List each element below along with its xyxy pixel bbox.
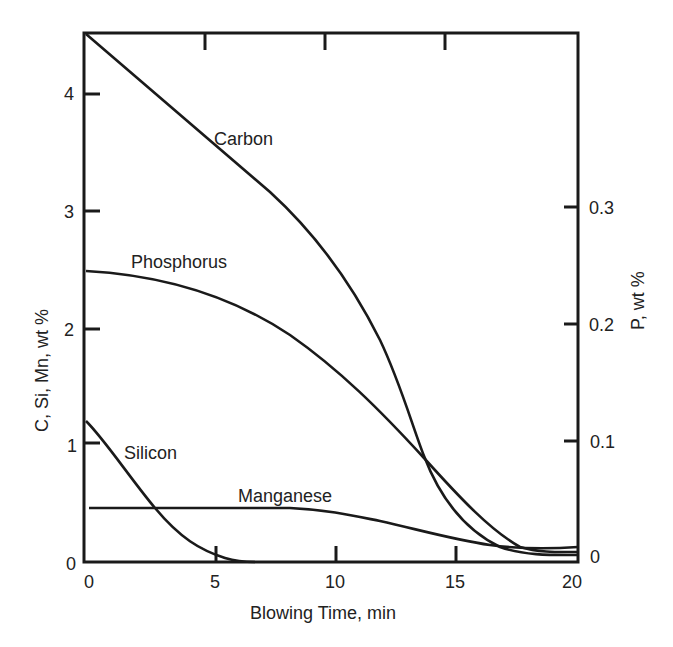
y-tick-label: 1 bbox=[67, 436, 77, 456]
phosphorus-label: Phosphorus bbox=[131, 252, 227, 272]
x-tick-label: 0 bbox=[84, 572, 94, 592]
y-right-tick-label: 0 bbox=[590, 547, 600, 567]
y-right-axis-title: P, wt % bbox=[628, 271, 648, 330]
x-tick-label: 10 bbox=[325, 572, 345, 592]
y-right-tick-label: 0.1 bbox=[590, 432, 615, 452]
y-axis-title: C, Si, Mn, wt % bbox=[32, 309, 52, 432]
x-tick-label: 20 bbox=[562, 572, 582, 592]
x-tick-label: 5 bbox=[210, 572, 220, 592]
y-tick-label: 0 bbox=[66, 554, 76, 574]
manganese-curve bbox=[89, 508, 578, 548]
carbon-curve bbox=[86, 34, 578, 555]
y-right-tick-label: 0.3 bbox=[589, 198, 614, 218]
y-tick-label: 3 bbox=[64, 202, 74, 222]
plot-frame bbox=[84, 33, 578, 562]
x-ticks-top bbox=[205, 33, 445, 50]
manganese-label: Manganese bbox=[238, 486, 332, 506]
x-tick-label: 15 bbox=[445, 572, 465, 592]
y-tick-label: 4 bbox=[64, 84, 74, 104]
right-y-ticks bbox=[564, 207, 578, 441]
chart-canvas: 4 3 2 1 0 0.3 0.2 0.1 0 0 5 10 15 20 Blo… bbox=[0, 0, 673, 647]
left-y-ticks bbox=[84, 94, 100, 443]
y-right-tick-label: 0.2 bbox=[589, 315, 614, 335]
x-axis-title: Blowing Time, min bbox=[250, 603, 396, 623]
phosphorus-curve bbox=[86, 271, 578, 552]
silicon-label: Silicon bbox=[124, 443, 177, 463]
carbon-label: Carbon bbox=[214, 129, 273, 149]
y-tick-label: 2 bbox=[64, 320, 74, 340]
x-ticks-bottom bbox=[216, 546, 456, 562]
